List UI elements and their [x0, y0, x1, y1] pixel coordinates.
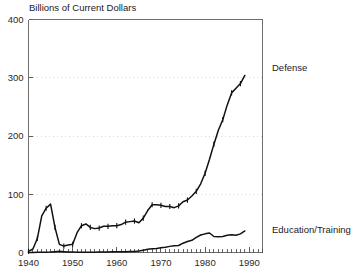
chart-canvas: 0100200300400 194019501960197019801990 B… [0, 0, 357, 275]
series-label-defense: Defense [272, 62, 307, 73]
series-line-defense [29, 75, 245, 251]
y-axis-tick-labels: 0100200300400 [8, 14, 24, 258]
x-tick-label: 1990 [239, 257, 260, 268]
x-axis-tick-labels: 194019501960197019801990 [18, 257, 260, 268]
x-tick-label: 1970 [150, 257, 171, 268]
y-axis-ticks [29, 20, 34, 253]
y-tick-label: 300 [8, 72, 24, 83]
x-tick-label: 1980 [195, 257, 216, 268]
x-tick-label: 1940 [18, 257, 39, 268]
grid-lines [29, 78, 263, 195]
series-label-education: Education/Training [272, 224, 351, 235]
y-tick-label: 400 [8, 14, 24, 25]
y-tick-label: 200 [8, 130, 24, 141]
y-tick-label: 100 [8, 189, 24, 200]
chart-title: Billions of Current Dollars [29, 2, 136, 13]
x-tick-label: 1950 [62, 257, 83, 268]
series-line-education-training [29, 231, 245, 252]
chart-container: 0100200300400 194019501960197019801990 B… [0, 0, 357, 275]
x-tick-label: 1960 [106, 257, 127, 268]
data-series [29, 75, 245, 254]
